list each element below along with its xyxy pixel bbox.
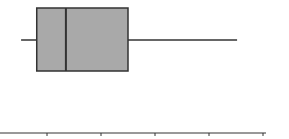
iqr-box — [37, 8, 128, 71]
box-plot-chart — [0, 0, 289, 139]
box-plot-group — [21, 8, 237, 71]
x-axis — [0, 133, 266, 136]
